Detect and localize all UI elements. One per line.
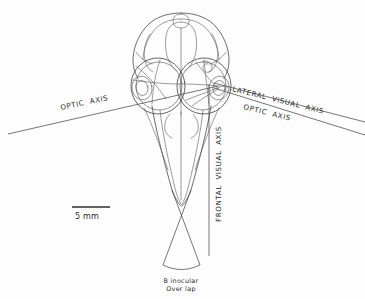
binocular-overlap-group	[163, 190, 200, 270]
median-lobe	[173, 14, 189, 28]
right-sclerotic-ring-inner	[212, 79, 227, 96]
overlap-arc	[163, 265, 200, 270]
rostrum-group	[144, 106, 219, 206]
binocular-overlap-label-line2: Over lap	[166, 285, 196, 293]
beak-left-edge	[152, 106, 181, 206]
right-orbit-chord-b	[182, 84, 228, 87]
right-orbit-chord-d	[186, 87, 220, 100]
optic-axis-right-line	[214, 88, 365, 135]
cranium-group	[133, 13, 229, 115]
skull-diagram: LATERAL VISUAL AXIS OPTIC AXIS OPTIC AXI…	[0, 0, 365, 299]
scale-bar-label: 5 mm	[75, 212, 99, 221]
figure-container: LATERAL VISUAL AXIS OPTIC AXIS OPTIC AXI…	[0, 0, 365, 299]
optic-axis-left-label: OPTIC AXIS	[60, 93, 109, 112]
beak-right-edge	[182, 106, 211, 206]
right-naris	[191, 114, 198, 138]
right-fovea-spiral	[202, 61, 212, 72]
left-orbit-group	[127, 55, 188, 118]
frontal-visual-axis-label: FRONTAL VISUAL AXIS	[214, 126, 223, 222]
binocular-overlap-label-line1: B inocular	[163, 277, 198, 285]
left-orbit-outline	[127, 55, 188, 118]
optic-axis-left-line	[8, 86, 218, 134]
left-naris	[165, 114, 172, 138]
right-orbit-chord-e	[192, 89, 218, 106]
